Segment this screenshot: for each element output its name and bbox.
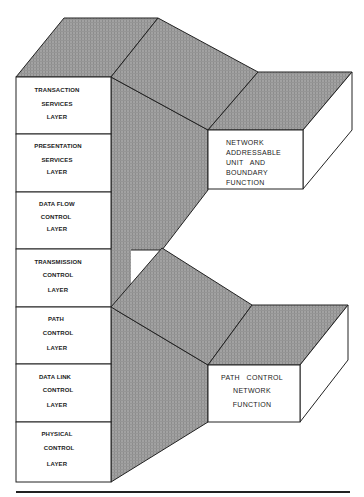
layer-label: LAYER bbox=[47, 461, 68, 467]
layer-label: LAYER bbox=[47, 402, 68, 408]
layer-label: LAYER bbox=[47, 114, 68, 120]
group-label: NETWORK bbox=[226, 139, 264, 146]
group-label: UNIT AND bbox=[226, 159, 265, 166]
group-label: ADDRESSABLE bbox=[226, 149, 281, 156]
layer-label: PRESENTATION bbox=[34, 143, 81, 149]
layer-label: CONTROL bbox=[43, 330, 74, 336]
group-label: FUNCTION bbox=[233, 401, 272, 408]
layer-stack bbox=[16, 77, 111, 482]
layer-label: CONTROL bbox=[44, 445, 75, 451]
layer-label: CONTROL bbox=[43, 387, 74, 393]
layer-label: TRANSMISSION bbox=[34, 259, 81, 265]
layer-label: DATA FLOW bbox=[39, 201, 75, 207]
layer-data-link-control bbox=[16, 364, 111, 422]
layer-label: CONTROL bbox=[41, 214, 72, 220]
bottom-rule bbox=[16, 491, 350, 493]
network-architecture-diagram: TRANSACTION SERVICES LAYER PRESENTATION … bbox=[0, 0, 364, 497]
layer-label: SERVICES bbox=[41, 157, 72, 163]
group-label: FUNCTION bbox=[226, 179, 265, 186]
layer-label: CONTROL bbox=[43, 272, 74, 278]
layer-label: LAYER bbox=[47, 169, 68, 175]
layer-label: PATH bbox=[48, 316, 64, 322]
group-label: PATH CONTROL bbox=[221, 374, 283, 381]
layer-label: LAYER bbox=[48, 287, 69, 293]
layer-transmission-control bbox=[16, 249, 111, 307]
layer-label: TRANSACTION bbox=[35, 87, 80, 93]
group-label: NETWORK bbox=[233, 387, 271, 394]
layer-label: LAYER bbox=[47, 345, 68, 351]
layer-label: DATA LINK bbox=[39, 374, 72, 380]
layer-label: SERVICES bbox=[41, 101, 72, 107]
layer-label: PHYSICAL bbox=[41, 431, 72, 437]
layer-label: LAYER bbox=[47, 226, 68, 232]
group-label: BOUNDARY bbox=[226, 169, 268, 176]
